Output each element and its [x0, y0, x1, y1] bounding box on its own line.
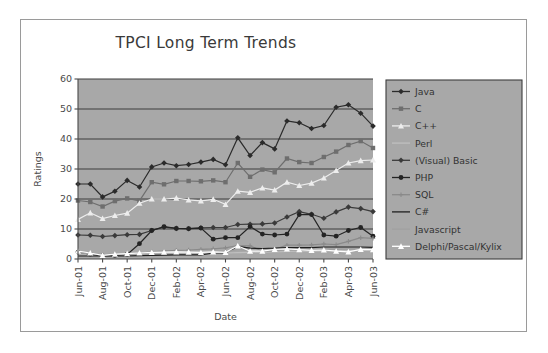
x-tick-label: Aug-02 — [245, 266, 256, 300]
legend-label: Perl — [415, 138, 432, 149]
plot-area-container: 0102030405060 Jun-01Aug-01Oct-01Dec-01Fe… — [21, 20, 528, 333]
legend-label: (Visual) Basic — [415, 155, 478, 166]
legend-label: Delphi/Pascal/Kylix — [415, 241, 502, 252]
x-tick-label: Dec-02 — [294, 266, 305, 300]
legend-label: PHP — [415, 172, 434, 183]
x-tick-label: Feb-02 — [171, 266, 182, 298]
legend: JavaCC++Perl(Visual) BasicPHPSQLC#Javasc… — [386, 80, 522, 259]
x-tick-label: Jun-02 — [220, 266, 231, 297]
x-tick-label: Oct-02 — [269, 266, 280, 298]
x-tick-label: Aug-01 — [97, 266, 108, 300]
y-tick-label: 20 — [60, 193, 72, 204]
chart-frame: TPCI Long Term Trends 0102030405060 Jun-… — [20, 19, 527, 332]
legend-label: Javascript — [414, 224, 461, 235]
legend-label: Java — [414, 86, 435, 97]
y-tick-label: 60 — [60, 73, 72, 84]
x-axis-label: Date — [214, 311, 237, 322]
x-axis-tick-labels: Jun-01Aug-01Oct-01Dec-01Feb-02Apr-02Jun-… — [73, 259, 379, 300]
y-tick-label: 40 — [60, 133, 72, 144]
y-tick-label: 10 — [60, 223, 72, 234]
x-tick-label: Dec-01 — [146, 266, 157, 300]
x-tick-label: Jun-01 — [73, 266, 84, 297]
chart-screenshot: TPCI Long Term Trends 0102030405060 Jun-… — [0, 0, 548, 353]
x-tick-label: Jun-03 — [368, 266, 379, 297]
y-tick-label: 50 — [60, 103, 72, 114]
x-tick-label: Oct-01 — [122, 266, 133, 298]
x-tick-label: Feb-03 — [318, 266, 329, 298]
x-tick-label: Apr-03 — [343, 266, 354, 297]
y-tick-label: 30 — [60, 163, 72, 174]
legend-label: C — [415, 103, 422, 114]
x-tick-label: Apr-02 — [195, 266, 206, 297]
y-axis-tick-labels: 0102030405060 — [60, 73, 78, 264]
legend-label: SQL — [415, 189, 434, 200]
legend-label: C++ — [415, 120, 437, 131]
line-chart: 0102030405060 Jun-01Aug-01Oct-01Dec-01Fe… — [21, 20, 528, 333]
y-axis-label: Ratings — [32, 151, 43, 187]
y-tick-label: 0 — [66, 253, 72, 264]
legend-label: C# — [415, 206, 429, 217]
